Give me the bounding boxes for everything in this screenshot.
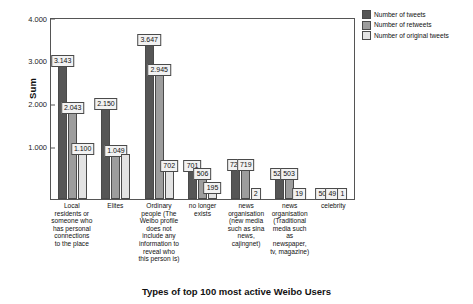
chart-canvas: Sum 1.0002.0003.0004.000 3.1432.0431.100… — [0, 0, 473, 304]
bar-value-label: 19 — [292, 188, 306, 200]
bar[interactable]: 49 — [328, 197, 337, 199]
x-axis-category-label: no longer exists — [181, 202, 225, 263]
bar-group: 3.1432.0431.100 — [51, 19, 94, 199]
x-axis-category-label: celebrity — [311, 202, 355, 263]
bar[interactable]: 3.143 — [58, 64, 67, 199]
bar-value-label: 2.043 — [61, 102, 85, 114]
bar-value-label: 1.100 — [71, 143, 95, 155]
legend-item-label: Number of retweets — [374, 21, 432, 29]
y-axis-tick-label: 3.000 — [28, 57, 51, 66]
bar-groups: 3.1432.0431.1002.1501.0493.6472.94570270… — [51, 19, 354, 199]
chart-legend: Number of tweetsNumber of retweetsNumber… — [362, 10, 470, 40]
bar-value-label: 2 — [251, 188, 261, 200]
bar-group: 52250319 — [267, 19, 310, 199]
x-axis-category-label: news organisation (new media such as sin… — [224, 202, 268, 263]
y-axis-tick-label: 4.000 — [28, 14, 51, 23]
x-axis-category-label: Local residents or someone who has perso… — [50, 202, 94, 263]
bar-value-label: 195 — [204, 182, 222, 194]
plot-area: 1.0002.0003.0004.000 3.1432.0431.1002.15… — [50, 18, 355, 200]
x-axis-category-label: Ordinary people (The Weibo profile does … — [137, 202, 181, 263]
bar-group: 701506195 — [181, 19, 224, 199]
bar[interactable]: 2.043 — [68, 111, 77, 199]
bar[interactable]: 195 — [208, 191, 217, 199]
y-axis-tick-label: 1.000 — [28, 143, 51, 152]
bar[interactable]: 2 — [251, 197, 260, 199]
legend-swatch-icon — [362, 21, 371, 30]
bar-value-label: 702 — [160, 160, 178, 172]
legend-item[interactable]: Number of tweets — [362, 10, 470, 19]
legend-item-label: Number of original tweets — [374, 32, 449, 40]
x-axis-category-label: Elites — [94, 202, 138, 263]
bar[interactable]: 2.945 — [155, 73, 164, 199]
bar[interactable]: 721 — [231, 168, 240, 199]
bar-group: 2.1501.049 — [94, 19, 137, 199]
bar[interactable] — [121, 154, 130, 199]
bar[interactable]: 1.049 — [111, 154, 120, 199]
bar-group: 7217192 — [224, 19, 267, 199]
legend-swatch-icon — [362, 31, 371, 40]
y-axis-tick-label: 2.000 — [28, 100, 51, 109]
bar[interactable]: 702 — [165, 169, 174, 199]
bar[interactable]: 19 — [295, 197, 304, 199]
legend-item-label: Number of tweets — [374, 11, 426, 19]
bar-value-label: 719 — [237, 159, 255, 171]
bar[interactable]: 719 — [241, 168, 250, 199]
bar-value-label: 3.143 — [51, 55, 75, 67]
x-axis-category-label: news organisation (Traditional media suc… — [268, 202, 312, 263]
bar-group: 3.6472.945702 — [138, 19, 181, 199]
bar-value-label: 2.945 — [147, 64, 171, 76]
bar-value-label: 1 — [337, 188, 347, 200]
legend-swatch-icon — [362, 10, 371, 19]
bar-value-label: 506 — [194, 168, 212, 180]
x-axis-title: Types of top 100 most active Weibo Users — [0, 286, 473, 297]
bar-value-label: 2.150 — [94, 98, 118, 110]
x-axis-category-labels: Local residents or someone who has perso… — [50, 202, 355, 263]
bar-value-label: 503 — [280, 168, 298, 180]
bar-value-label: 3.647 — [137, 34, 161, 46]
legend-item[interactable]: Number of original tweets — [362, 31, 470, 40]
legend-item[interactable]: Number of retweets — [362, 21, 470, 30]
y-axis-title: Sum — [27, 59, 38, 119]
bar-group: 50491 — [311, 19, 354, 199]
bar[interactable]: 1.100 — [78, 152, 87, 199]
bar[interactable]: 1 — [338, 197, 347, 199]
